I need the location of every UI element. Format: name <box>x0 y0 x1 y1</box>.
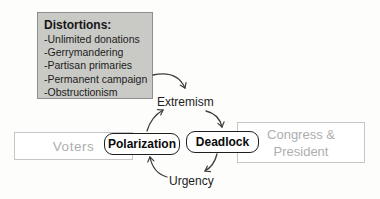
distortions-to-extremism-arrow <box>153 74 185 88</box>
distortions-item-partisan-primaries: -Partisan primaries <box>44 59 148 72</box>
deadlock-to-urgency-arrow <box>205 154 217 171</box>
congress-label-line2: President <box>274 143 329 160</box>
distortions-item-obstructionism: -Obstructionism <box>44 86 148 99</box>
polarization-to-extremism-arrow <box>147 110 163 131</box>
polarization-node: Polarization <box>104 133 180 155</box>
distortions-title: Distortions: <box>44 18 111 32</box>
distortions-box: Distortions: -Unlimited donations -Gerry… <box>37 12 153 99</box>
distortions-item-gerrymandering: -Gerrymandering <box>44 46 148 59</box>
urgency-label: Urgency <box>169 174 214 188</box>
distortions-item-unlimited-donations: -Unlimited donations <box>44 33 148 46</box>
deadlock-node: Deadlock <box>186 131 259 153</box>
feedback-loop-diagram: Distortions: -Unlimited donations -Gerry… <box>0 0 380 199</box>
urgency-to-polarization-arrow <box>150 157 167 177</box>
deadlock-label: Deadlock <box>196 135 249 149</box>
extremism-label: Extremism <box>157 95 214 109</box>
extremism-to-deadlock-arrow <box>206 111 222 127</box>
polarization-label: Polarization <box>108 137 176 151</box>
distortions-item-permanent-campaign: -Permanent campaign <box>44 73 148 86</box>
voters-label: Voters <box>53 139 94 154</box>
congress-label-line1: Congress & <box>267 126 335 143</box>
